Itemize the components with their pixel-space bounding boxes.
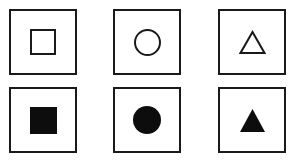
shape-cell-triangle-filled[interactable] — [218, 87, 286, 153]
triangle-outline-icon — [239, 30, 266, 55]
shape-holder — [11, 89, 75, 151]
shape-cell-triangle-outline[interactable] — [218, 9, 286, 75]
shape-cell-square-filled[interactable] — [9, 87, 77, 153]
shape-cell-circle-outline[interactable] — [113, 9, 181, 75]
shape-row-outline — [0, 9, 295, 75]
circle-outline-icon — [134, 29, 161, 56]
shape-holder — [115, 89, 179, 151]
shape-holder — [220, 11, 284, 73]
shape-row-filled — [0, 87, 295, 153]
circle-filled-icon — [133, 106, 161, 134]
square-filled-icon — [30, 107, 57, 134]
shape-holder — [115, 11, 179, 73]
triangle-filled-icon — [239, 108, 266, 133]
square-outline-icon — [30, 29, 56, 55]
shape-cell-circle-filled[interactable] — [113, 87, 181, 153]
shape-holder — [220, 89, 284, 151]
shape-cell-square-outline[interactable] — [9, 9, 77, 75]
shape-grid — [0, 0, 295, 165]
shape-holder — [11, 11, 75, 73]
